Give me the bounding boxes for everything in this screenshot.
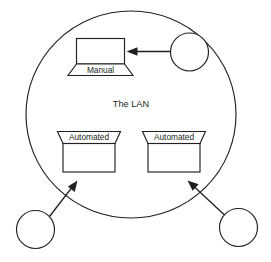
diagram-canvas: The LAN Manual Automated Automated (0, 0, 271, 262)
laptop-screen-icon (77, 39, 125, 65)
node-label-automated-right: Automated (154, 132, 195, 142)
hopper-body-icon (63, 144, 115, 173)
arrowhead-icon (127, 47, 138, 56)
connector-arrow-to-automated-left (50, 181, 78, 217)
external-actor-circle-bottom-left (17, 211, 55, 249)
node-automated-left: Automated (58, 132, 121, 173)
node-automated-right: Automated (143, 132, 206, 173)
connector-line (50, 188, 72, 217)
connector-line (195, 187, 225, 215)
lan-region-label: The LAN (113, 99, 149, 109)
hopper-body-icon (148, 144, 200, 173)
lan-topology-diagram: The LAN Manual Automated Automated (0, 0, 271, 262)
connector-arrow-to-manual (127, 47, 171, 56)
external-actor-circle-top-right (171, 33, 209, 71)
node-label-automated-left: Automated (69, 132, 110, 142)
node-manual-workstation: Manual (68, 39, 133, 76)
node-label-manual: Manual (87, 65, 114, 75)
external-actor-circle-bottom-right (220, 209, 258, 247)
